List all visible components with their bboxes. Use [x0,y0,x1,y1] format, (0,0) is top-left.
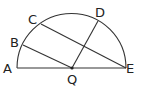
label-d: D [95,5,105,20]
label-e: E [126,61,134,76]
semicircle-diagram: A B C D Q E [0,0,141,89]
label-c: C [28,12,37,27]
segment-bq [23,45,72,68]
segment-ce [41,24,126,68]
point-q-dot [70,66,73,69]
label-a: A [3,61,12,76]
label-q: Q [67,72,77,87]
label-b: B [10,35,19,50]
segment-qd [72,21,98,68]
